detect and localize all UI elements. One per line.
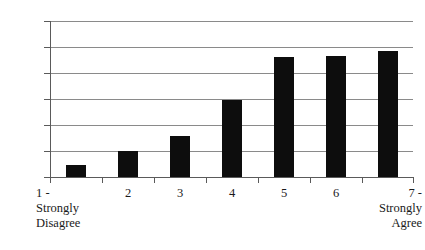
- x-category-label-7-line3: Agree: [342, 216, 422, 231]
- bar-4: [222, 100, 242, 177]
- x-tick-mark-0: [50, 178, 51, 183]
- x-tick-mark-2: [154, 178, 155, 183]
- bar-5: [274, 57, 294, 177]
- x-tick-mark-6: [362, 178, 363, 183]
- bars-layer: [50, 21, 413, 177]
- x-category-label-7: 7 - Strongly Agree: [342, 186, 422, 231]
- bar-7: [378, 51, 398, 177]
- bar-6: [326, 56, 346, 177]
- x-category-label-7-line2: Strongly: [342, 201, 422, 216]
- x-axis-line: [50, 177, 414, 178]
- x-tick-mark-4: [258, 178, 259, 183]
- x-tick-mark-1: [102, 178, 103, 183]
- bar-chart: 30% 25% 20% 15% 10% 5% 0% 1 - Strongly D…: [0, 0, 425, 250]
- bar-1: [66, 165, 86, 177]
- x-category-label-1-line3: Disagree: [36, 216, 116, 231]
- bar-2: [118, 151, 138, 177]
- x-tick-mark-7: [413, 178, 414, 183]
- x-tick-mark-5: [310, 178, 311, 183]
- x-tick-mark-3: [206, 178, 207, 183]
- bar-3: [170, 136, 190, 177]
- x-category-label-7-line1: 7 -: [342, 186, 422, 201]
- x-category-label-1-line2: Strongly: [36, 201, 116, 216]
